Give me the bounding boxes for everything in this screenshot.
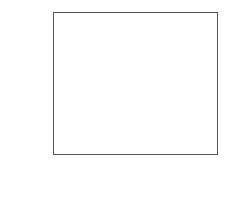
normal-probability-plot <box>0 0 234 203</box>
plot-canvas <box>0 0 234 203</box>
